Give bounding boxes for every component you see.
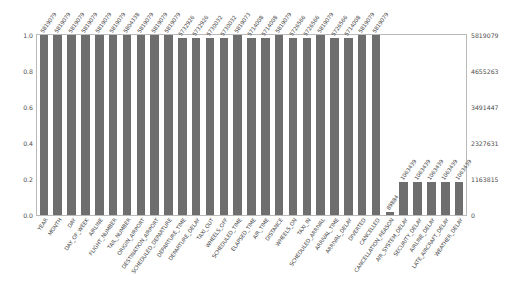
bar-group: 1063439	[441, 35, 450, 215]
bar[interactable]	[358, 35, 367, 215]
bar[interactable]	[150, 35, 159, 215]
bar-group: 5819079	[40, 35, 49, 215]
bar-group: 5714008	[247, 35, 256, 215]
bar[interactable]	[95, 35, 104, 215]
bar-chart-figure: 0.00.20.40.60.81.0 011638152327631349144…	[0, 0, 524, 290]
left-axis-tick-label: 0.2	[23, 176, 33, 183]
bar[interactable]	[413, 182, 422, 215]
left-axis-tick-label: 0.6	[23, 104, 33, 111]
bar-group: 5730032	[220, 35, 229, 215]
bar[interactable]	[372, 35, 381, 215]
bar[interactable]	[344, 38, 353, 215]
bar-group: 5819079	[67, 35, 76, 215]
bar[interactable]	[275, 35, 284, 215]
bar-group: 5819079	[316, 35, 325, 215]
bar-group: 5819079	[53, 35, 62, 215]
plot-area: 0.00.20.40.60.81.0 011638152327631349144…	[36, 34, 467, 216]
left-axis-tick-label: 0.0	[23, 212, 33, 219]
bar[interactable]	[206, 38, 215, 215]
left-axis-tick-label: 1.0	[23, 32, 33, 39]
bar-group: 5819079	[164, 35, 173, 215]
bar-group: 5819079	[358, 35, 367, 215]
right-axis-tick-label: 5819079	[471, 32, 499, 39]
bar[interactable]	[455, 182, 464, 215]
bar-group: 89884	[386, 35, 395, 215]
bar[interactable]	[109, 35, 118, 215]
bar[interactable]	[178, 38, 187, 215]
bar[interactable]	[330, 38, 339, 215]
bar-value-label: 89884	[385, 194, 399, 211]
bar-group: 1063439	[427, 35, 436, 215]
bar[interactable]	[137, 35, 146, 215]
bar[interactable]	[303, 38, 312, 215]
bar-group: 5819079	[95, 35, 104, 215]
left-axis-tick-label: 0.4	[23, 140, 33, 147]
bar[interactable]	[123, 35, 132, 215]
bar-group: 5732926	[192, 35, 201, 215]
bar-group: 5819079	[109, 35, 118, 215]
bar-group: 5819079	[81, 35, 90, 215]
bar[interactable]	[386, 212, 395, 215]
bar[interactable]	[316, 35, 325, 215]
bar[interactable]	[192, 38, 201, 215]
bar-group: 5726566	[303, 35, 312, 215]
bar[interactable]	[220, 38, 229, 215]
bar[interactable]	[261, 38, 270, 215]
bar[interactable]	[247, 38, 256, 215]
bar-group: 5714008	[261, 35, 270, 215]
bar-group: 5819079	[275, 35, 284, 215]
bar-group: 5819079	[137, 35, 146, 215]
bar-group: 5819079	[372, 35, 381, 215]
bar[interactable]	[289, 38, 298, 215]
bar-group: 5726566	[330, 35, 339, 215]
bar-group: 5714008	[344, 35, 353, 215]
x-axis-tick-text: DAY	[66, 217, 77, 229]
right-axis-tick-label: 1163815	[471, 176, 499, 183]
bar[interactable]	[164, 35, 173, 215]
right-axis-tick-label: 4655263	[471, 68, 499, 75]
right-axis-tick-label: 0	[471, 212, 475, 219]
bar-value-label: 1063439	[454, 159, 472, 182]
bar-group: 5730032	[206, 35, 215, 215]
right-axis-tick-label: 2327631	[471, 140, 499, 147]
bar-group: 5819079	[150, 35, 159, 215]
bar[interactable]	[441, 182, 450, 215]
bar[interactable]	[399, 182, 408, 215]
bar-group: 5819073	[233, 35, 242, 215]
right-axis-tick-label: 3491447	[471, 104, 499, 111]
bar[interactable]	[233, 35, 242, 215]
x-axis-tick-text: YEAR	[36, 217, 49, 232]
bar-group: 5804338	[123, 35, 132, 215]
bar-group: 5726566	[289, 35, 298, 215]
bar-group: 1063439	[455, 35, 464, 215]
bar-group: 1063439	[399, 35, 408, 215]
bar[interactable]	[53, 35, 62, 215]
bar[interactable]	[81, 35, 90, 215]
bar-group: 5732926	[178, 35, 187, 215]
bar[interactable]	[67, 35, 76, 215]
bar[interactable]	[427, 182, 436, 215]
bar[interactable]	[40, 35, 49, 215]
bar-group: 1063439	[413, 35, 422, 215]
left-axis-tick-label: 0.8	[23, 68, 33, 75]
